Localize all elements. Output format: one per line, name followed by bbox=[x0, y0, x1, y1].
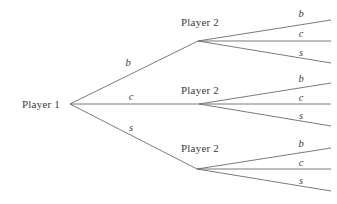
action-label-p2-bottom-s: s bbox=[299, 175, 303, 186]
action-label-p2-top-s: s bbox=[299, 47, 303, 58]
action-label-p2-middle-c: c bbox=[299, 92, 304, 103]
action-label-p1-b: b bbox=[125, 57, 130, 68]
action-label-p2-bottom-c: c bbox=[299, 157, 304, 168]
edge-level1-0 bbox=[70, 41, 198, 104]
edge-level2-top-s bbox=[198, 41, 331, 63]
action-label-p2-top-b: b bbox=[298, 8, 303, 19]
action-label-p2-top-c: c bbox=[299, 28, 304, 39]
node-label-player1: Player 1 bbox=[22, 98, 60, 110]
node-label-player2-bottom: Player 2 bbox=[181, 142, 219, 154]
edge-level1-2 bbox=[70, 104, 197, 169]
edge-level2-bottom-s bbox=[197, 169, 331, 191]
edge-group bbox=[70, 20, 331, 191]
game-tree-diagram: Player 1 Player 2 Player 2 Player 2 b c … bbox=[0, 0, 337, 204]
action-label-p2-middle-s: s bbox=[299, 110, 303, 121]
node-label-player2-top: Player 2 bbox=[181, 16, 219, 28]
action-label-p2-middle-b: b bbox=[298, 73, 303, 84]
action-label-p2-bottom-b: b bbox=[298, 138, 303, 149]
action-label-p1-s: s bbox=[129, 122, 133, 133]
edge-level2-middle-s bbox=[199, 104, 331, 126]
action-label-p1-c: c bbox=[129, 91, 134, 102]
node-label-player2-middle: Player 2 bbox=[181, 84, 219, 96]
